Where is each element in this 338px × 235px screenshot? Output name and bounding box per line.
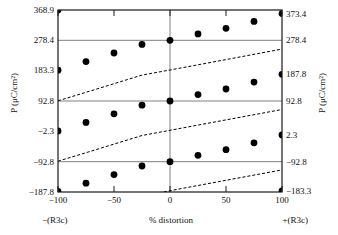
x-axis-label: % distortion [119,215,223,225]
x-axis-left-annotation: −(R3c) [42,215,102,225]
data-point [83,180,90,187]
data-point [139,163,146,170]
data-point [111,50,118,57]
ytick-label-right-1: 278.4 [286,35,338,45]
data-point [111,110,118,117]
ytick-label-right-4: 2.3 [286,130,338,140]
ytick-label-right-3: 92.8 [286,96,338,106]
data-point [223,25,230,32]
x-axis-right-annotation: +(R3c) [248,215,308,225]
data-point [139,102,146,109]
ytick-label-left-5: −92.8 [2,157,54,167]
data-point [251,139,258,146]
polarization-branch-chart: 368.9 278.4 183.3 92.8 −2.3 −92.8 −187.8… [0,0,338,235]
ytick-label-right-5: −92.8 [286,157,338,167]
data-point [195,91,202,98]
data-point [251,18,258,25]
data-point [139,41,146,48]
data-point [195,31,202,38]
data-point [167,98,174,105]
xtick-label-2: 0 [148,195,192,205]
ytick-label-right-2: 187.8 [286,69,338,79]
data-point [251,79,258,86]
data-point [83,3,90,10]
ytick-label-right-0: 373.4 [286,9,338,19]
data-point [167,158,174,165]
xtick-label-0: −100 [36,195,80,205]
y-axis-label-left: P (μC/cm²) [9,43,19,143]
data-point [223,146,230,153]
data-point [111,171,118,178]
data-point [223,86,230,93]
ytick-label-left-0: 368.9 [2,5,54,15]
data-point [167,37,174,44]
xtick-label-3: 50 [204,195,248,205]
y-axis-label-right: P (μC/cm²) [317,43,327,143]
xtick-label-1: −50 [92,195,136,205]
data-point [83,58,90,65]
data-point [83,119,90,126]
data-point [195,152,202,159]
xtick-label-4: 100 [260,195,304,205]
